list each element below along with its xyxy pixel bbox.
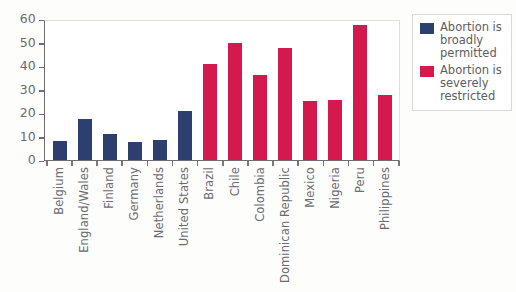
bar-slot bbox=[172, 21, 197, 160]
x-label-slot: Germany bbox=[121, 167, 146, 267]
x-axis-category-label: Philippines bbox=[378, 167, 392, 230]
bar-slot bbox=[222, 21, 247, 160]
legend-entry: Abortion is severely restricted bbox=[420, 64, 505, 103]
bar bbox=[103, 134, 117, 160]
bar bbox=[203, 64, 217, 160]
bar-slot bbox=[247, 21, 272, 160]
x-label-slot: Chile bbox=[222, 167, 247, 267]
x-axis-tick-mark bbox=[46, 161, 48, 166]
x-axis-category-label: Dominican Republic bbox=[278, 167, 292, 283]
x-label-slot: Mexico bbox=[297, 167, 322, 267]
x-axis-category-label: Finland bbox=[102, 167, 116, 209]
y-axis-tick-label: 50 bbox=[20, 35, 36, 50]
y-axis-tick-label: 10 bbox=[20, 129, 36, 144]
x-axis-tick-mark bbox=[348, 161, 350, 166]
x-label-slot: Belgium bbox=[46, 167, 71, 267]
bar bbox=[78, 119, 92, 160]
bar bbox=[228, 43, 242, 161]
x-axis-tick-mark bbox=[172, 161, 174, 166]
x-axis-tick-mark bbox=[323, 161, 325, 166]
x-axis-category-label: Belgium bbox=[52, 167, 66, 215]
bar-slot bbox=[147, 21, 172, 160]
x-axis-category-label: Nigeria bbox=[328, 167, 342, 209]
bar-slot bbox=[72, 21, 97, 160]
bar-slot bbox=[322, 21, 347, 160]
x-axis-tick-mark bbox=[222, 161, 224, 166]
legend-swatch-restricted bbox=[420, 66, 434, 77]
x-label-slot: Finland bbox=[96, 167, 121, 267]
x-label-slot: Nigeria bbox=[323, 167, 348, 267]
x-label-slot: Peru bbox=[348, 167, 373, 267]
y-axis-tick-label: 60 bbox=[20, 11, 36, 26]
x-axis-tick-mark bbox=[147, 161, 149, 166]
x-axis-tick-mark bbox=[121, 161, 123, 166]
x-axis-labels: BelgiumEngland/WalesFinlandGermanyNether… bbox=[44, 167, 400, 267]
x-axis-category-label: Peru bbox=[353, 167, 367, 193]
bar-slot bbox=[297, 21, 322, 160]
bar bbox=[278, 48, 292, 160]
x-label-slot: Colombia bbox=[247, 167, 272, 267]
y-axis-tick-label: 40 bbox=[20, 58, 36, 73]
x-axis-category-label: Mexico bbox=[303, 167, 317, 208]
bar bbox=[178, 111, 192, 160]
bar bbox=[53, 141, 67, 160]
bar bbox=[128, 142, 142, 160]
bar-group bbox=[45, 21, 399, 160]
bar-slot bbox=[197, 21, 222, 160]
x-label-slot: Netherlands bbox=[147, 167, 172, 267]
x-label-slot: Dominican Republic bbox=[272, 167, 297, 267]
bar bbox=[303, 101, 317, 160]
legend-swatch-permitted bbox=[420, 23, 434, 34]
x-label-slot: Philippines bbox=[373, 167, 398, 267]
x-axis-tick-mark bbox=[398, 161, 400, 166]
y-axis: 0102030405060 bbox=[0, 20, 44, 161]
bar-slot bbox=[372, 21, 397, 160]
x-axis-category-label: Brazil bbox=[202, 167, 216, 200]
bar-chart-figure: 0102030405060 BelgiumEngland/WalesFinlan… bbox=[0, 0, 516, 292]
y-axis-tick-label: 20 bbox=[20, 105, 36, 120]
y-axis-tick-label: 30 bbox=[20, 82, 36, 97]
bar bbox=[328, 100, 342, 160]
x-axis-tick-mark bbox=[373, 161, 375, 166]
x-axis-tick-mark bbox=[247, 161, 249, 166]
bar bbox=[353, 25, 367, 160]
x-axis-tick-mark bbox=[71, 161, 73, 166]
legend-label: Abortion is broadly permitted bbox=[440, 21, 505, 60]
y-axis-tick-label: 0 bbox=[28, 152, 36, 167]
bar-slot bbox=[272, 21, 297, 160]
x-axis-tick-mark bbox=[272, 161, 274, 166]
x-axis-category-label: Chile bbox=[228, 167, 242, 196]
x-label-slot: Brazil bbox=[197, 167, 222, 267]
x-axis-tick-mark bbox=[96, 161, 98, 166]
x-axis-tick-mark bbox=[297, 161, 299, 166]
bar-slot bbox=[122, 21, 147, 160]
x-axis-tick-mark bbox=[197, 161, 199, 166]
bar bbox=[378, 95, 392, 160]
legend-label: Abortion is severely restricted bbox=[440, 64, 505, 103]
plot-area bbox=[44, 20, 400, 161]
x-label-slot: United States bbox=[172, 167, 197, 267]
x-axis-category-label: Colombia bbox=[253, 167, 267, 222]
bar bbox=[253, 75, 267, 160]
x-axis-category-label: England/Wales bbox=[77, 167, 91, 253]
chart-legend: Abortion is broadly permittedAbortion is… bbox=[412, 14, 512, 111]
x-axis-category-label: Netherlands bbox=[152, 167, 166, 238]
bar bbox=[153, 140, 167, 160]
bar-slot bbox=[47, 21, 72, 160]
x-axis-category-label: Germany bbox=[127, 167, 141, 221]
legend-entry: Abortion is broadly permitted bbox=[420, 21, 505, 60]
bar-slot bbox=[347, 21, 372, 160]
x-label-slot: England/Wales bbox=[71, 167, 96, 267]
x-axis-category-label: United States bbox=[177, 167, 191, 246]
bar-slot bbox=[97, 21, 122, 160]
